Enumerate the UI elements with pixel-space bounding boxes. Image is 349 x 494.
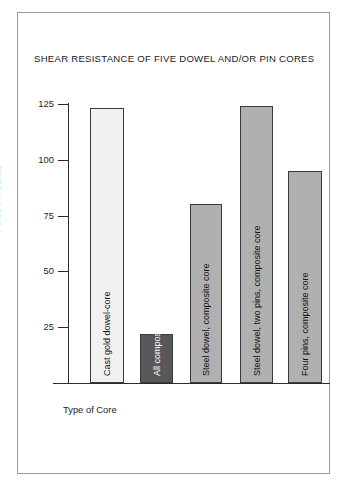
- bar: Steel dowel, composite core: [190, 204, 222, 383]
- x-axis-title: Type of Core: [63, 404, 117, 415]
- bar-label: All composite dowel-core: [152, 276, 161, 376]
- bars-layer: Cast gold dowel-coreAll composite dowel-…: [68, 104, 330, 383]
- y-tick-label: 75: [14, 210, 54, 221]
- bar: Four pins, composite core: [288, 171, 322, 383]
- y-tick-mark: [58, 160, 68, 161]
- y-tick-mark: [58, 216, 68, 217]
- bar: Cast gold dowel-core: [90, 108, 124, 383]
- y-tick-label: 50: [14, 265, 54, 276]
- bar-label: Steel dowel, two pins, composite core: [252, 225, 261, 376]
- bar-label: Cast gold dowel-core: [103, 291, 112, 376]
- bar: All composite dowel-core: [140, 334, 173, 383]
- bar-label: Four pins, composite core: [301, 272, 310, 376]
- y-tick-mark: [58, 104, 68, 105]
- y-tick-mark: [58, 327, 68, 328]
- bar: Steel dowel, two pins, composite core: [240, 106, 273, 383]
- y-axis-title: Force in Pounds: [0, 165, 2, 232]
- y-tick-label: 25: [14, 321, 54, 332]
- y-tick-mark: [58, 271, 68, 272]
- y-tick-label: 100: [14, 154, 54, 165]
- chart-figure: SHEAR RESISTANCE OF FIVE DOWEL AND/OR PI…: [0, 0, 349, 494]
- x-axis-line: [53, 383, 330, 384]
- bar-label: Steel dowel, composite core: [202, 263, 211, 376]
- y-tick-label: 125: [14, 98, 54, 109]
- chart-title: SHEAR RESISTANCE OF FIVE DOWEL AND/OR PI…: [34, 53, 314, 64]
